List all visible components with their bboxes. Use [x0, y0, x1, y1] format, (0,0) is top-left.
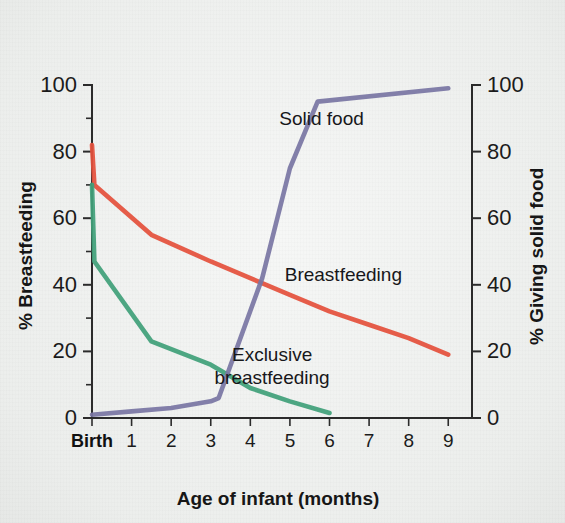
series-line-solid-food — [92, 88, 448, 414]
right-tick-label: 40 — [487, 272, 511, 297]
x-tick-label: 5 — [285, 430, 296, 451]
y2-axis-title: % Giving solid food — [526, 168, 547, 345]
chart-figure: 020406080100 020406080100 Birth123456789… — [0, 0, 565, 523]
x-tick-label-birth: Birth — [71, 431, 113, 451]
series-label-breastfeeding: Breastfeeding — [285, 264, 402, 285]
x-axis-ticks — [92, 418, 448, 426]
series-inline-labels: BreastfeedingExclusivebreastfeedingSolid… — [215, 108, 402, 388]
left-axis-ticks — [83, 85, 92, 418]
y-axis-title: % Breastfeeding — [15, 181, 36, 330]
series-label-solid-food: Solid food — [279, 108, 364, 129]
right-axis-ticks — [472, 85, 481, 418]
left-tick-label: 100 — [40, 72, 77, 97]
x-axis-title: Age of infant (months) — [177, 488, 380, 509]
right-tick-label: 100 — [487, 72, 524, 97]
right-tick-label: 20 — [487, 338, 511, 363]
left-tick-label: 80 — [53, 139, 77, 164]
left-axis-tick-labels: 020406080100 — [40, 72, 77, 430]
right-axis-tick-labels: 020406080100 — [487, 72, 524, 430]
left-tick-label: 40 — [53, 272, 77, 297]
right-tick-label: 0 — [487, 405, 499, 430]
x-tick-label: 1 — [126, 430, 137, 451]
x-tick-label: 7 — [364, 430, 375, 451]
left-tick-label: 0 — [65, 405, 77, 430]
x-tick-label: 3 — [205, 430, 216, 451]
data-series-group — [92, 88, 448, 414]
x-tick-label: 6 — [324, 430, 335, 451]
right-tick-label: 80 — [487, 139, 511, 164]
line-chart-plot: 020406080100 020406080100 Birth123456789… — [0, 0, 565, 523]
left-tick-label: 60 — [53, 205, 77, 230]
x-axis-tick-labels: Birth123456789 — [71, 430, 454, 451]
x-tick-label: 2 — [166, 430, 177, 451]
x-tick-label: 8 — [403, 430, 414, 451]
x-tick-label: 4 — [245, 430, 256, 451]
right-tick-label: 60 — [487, 205, 511, 230]
x-tick-label: 9 — [443, 430, 454, 451]
left-tick-label: 20 — [53, 338, 77, 363]
